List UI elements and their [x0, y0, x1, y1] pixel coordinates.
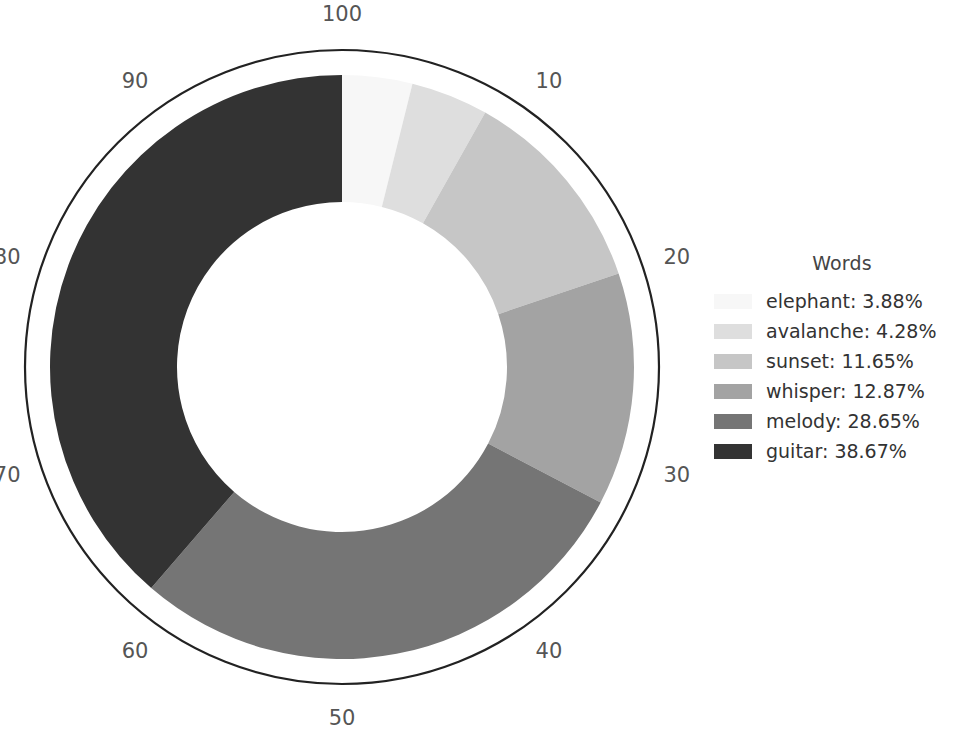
legend-item[interactable]: avalanche: 4.28%: [714, 316, 964, 346]
gauge-tick-label-20: 20: [663, 245, 690, 269]
legend-swatch-icon: [714, 294, 752, 309]
gauge-tick-label-60: 60: [122, 639, 149, 663]
gauge-tick-label-10: 10: [536, 69, 563, 93]
legend-items: elephant: 3.88%avalanche: 4.28%sunset: 1…: [714, 286, 964, 466]
legend-swatch-icon: [714, 414, 752, 429]
legend-item-label: avalanche: 4.28%: [766, 320, 936, 342]
chart-legend: Words elephant: 3.88%avalanche: 4.28%sun…: [714, 252, 964, 466]
gauge-tick-label-40: 40: [536, 639, 563, 663]
legend-item[interactable]: whisper: 12.87%: [714, 376, 964, 406]
donut-slices: [50, 75, 634, 659]
gauge-tick-label-70: 70: [0, 463, 21, 487]
legend-item[interactable]: guitar: 38.67%: [714, 436, 964, 466]
legend-item-label: guitar: 38.67%: [766, 440, 907, 462]
gauge-tick-label-90: 90: [122, 69, 149, 93]
donut-slice-melody[interactable]: [151, 444, 600, 659]
legend-swatch-icon: [714, 324, 752, 339]
legend-title: Words: [762, 252, 922, 274]
legend-item-label: elephant: 3.88%: [766, 290, 923, 312]
legend-item-label: sunset: 11.65%: [766, 350, 914, 372]
legend-swatch-icon: [714, 384, 752, 399]
legend-item[interactable]: elephant: 3.88%: [714, 286, 964, 316]
legend-item[interactable]: melody: 28.65%: [714, 406, 964, 436]
legend-item-label: melody: 28.65%: [766, 410, 920, 432]
donut-slice-guitar[interactable]: [50, 75, 342, 588]
gauge-tick-label-80: 80: [0, 245, 21, 269]
legend-swatch-icon: [714, 444, 752, 459]
gauge-tick-label-50: 50: [329, 706, 356, 730]
chart-canvas: 102030405060708090100 Words elephant: 3.…: [0, 0, 971, 730]
legend-item[interactable]: sunset: 11.65%: [714, 346, 964, 376]
legend-item-label: whisper: 12.87%: [766, 380, 925, 402]
legend-swatch-icon: [714, 354, 752, 369]
gauge-tick-label-30: 30: [663, 463, 690, 487]
gauge-tick-label-100: 100: [322, 2, 362, 26]
